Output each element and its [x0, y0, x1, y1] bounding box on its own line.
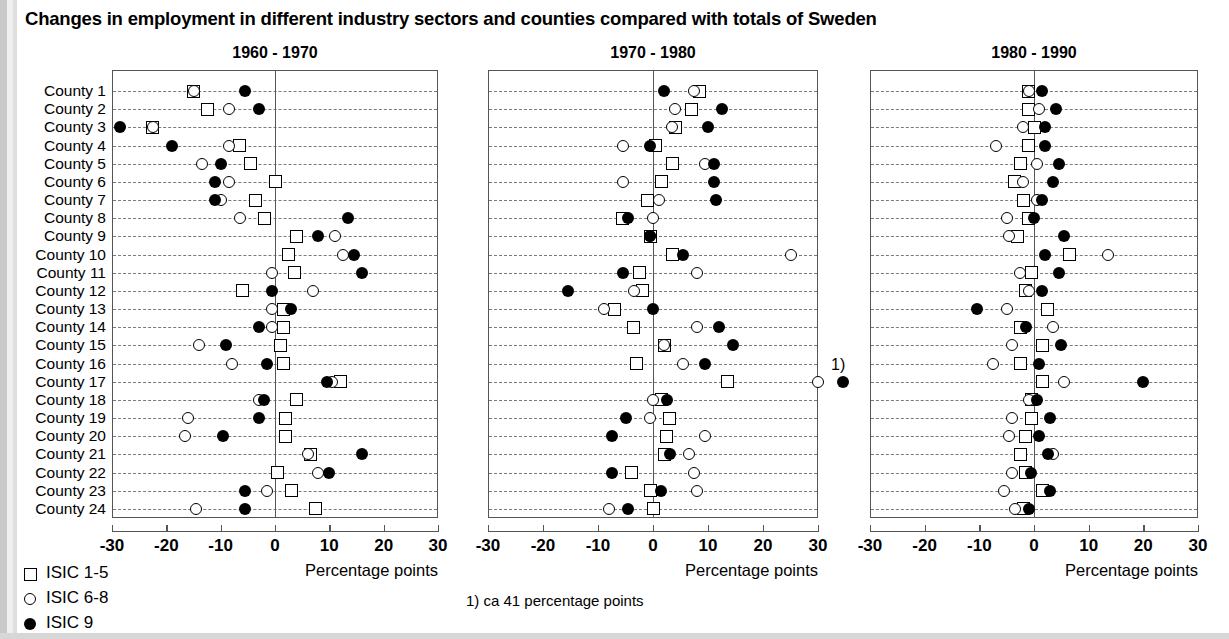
- data-point-open-square: [630, 357, 643, 370]
- row-label-county-21: County 21: [20, 445, 106, 463]
- row-label-county-24: County 24: [20, 500, 106, 518]
- data-point-filled-circle: [1020, 321, 1032, 333]
- data-point-open-circle: [1017, 176, 1029, 188]
- row-label-county-7: County 7: [20, 191, 106, 209]
- data-point-filled-circle: [661, 394, 673, 406]
- data-point-filled-circle: [166, 140, 178, 152]
- data-point-filled-circle: [258, 394, 270, 406]
- x-axis-tick-label: 20: [1118, 536, 1168, 556]
- x-axis-tick-label: -20: [900, 536, 950, 556]
- data-point-open-square: [666, 157, 679, 170]
- data-point-open-square: [1019, 430, 1032, 443]
- x-axis-tick: [112, 525, 113, 532]
- row-label-county-6: County 6: [20, 173, 106, 191]
- data-point-open-square: [660, 430, 673, 443]
- data-point-open-square: [279, 430, 292, 443]
- data-point-open-circle: [617, 176, 629, 188]
- data-point-open-square: [274, 339, 287, 352]
- page-edge-shadow-inner: [13, 0, 17, 639]
- x-axis-tick-label: -10: [573, 536, 623, 556]
- data-point-open-square: [271, 466, 284, 479]
- data-point-open-circle: [1031, 158, 1043, 170]
- x-axis-tick: [818, 525, 819, 532]
- data-point-filled-circle: [321, 376, 333, 388]
- data-point-open-square: [277, 357, 290, 370]
- data-point-open-square: [1014, 448, 1027, 461]
- data-point-filled-circle: [348, 249, 360, 261]
- x-axis-caption: Percentage points: [1048, 561, 1198, 580]
- data-point-filled-circle: [644, 140, 656, 152]
- row-label-county-15: County 15: [20, 336, 106, 354]
- footnote-marker: 1): [831, 356, 845, 374]
- data-point-open-square: [1014, 357, 1027, 370]
- legend-label: ISIC 1-5: [46, 563, 108, 583]
- row-label-county-17: County 17: [20, 373, 106, 391]
- x-axis-tick: [708, 525, 709, 532]
- x-axis-tick: [1034, 525, 1035, 532]
- x-axis-tick: [543, 525, 544, 532]
- x-axis-tick: [925, 525, 926, 532]
- data-point-open-circle: [261, 485, 273, 497]
- data-point-filled-circle: [677, 249, 689, 261]
- panel-title: 1980 - 1990: [870, 44, 1198, 62]
- x-axis-tick: [329, 525, 330, 532]
- data-point-filled-circle: [1036, 285, 1048, 297]
- data-point-open-circle: [1023, 85, 1035, 97]
- data-point-filled-circle: [239, 503, 251, 515]
- x-axis-tick-label: -10: [196, 536, 246, 556]
- row-label-county-2: County 2: [20, 100, 106, 118]
- data-point-open-square: [290, 230, 303, 243]
- data-point-open-square: [655, 175, 668, 188]
- data-point-open-circle: [987, 358, 999, 370]
- row-label-county-11: County 11: [20, 264, 106, 282]
- data-point-open-square: [201, 103, 214, 116]
- data-point-open-square: [627, 321, 640, 334]
- row-label-county-18: County 18: [20, 391, 106, 409]
- legend-symbol-open-square: [24, 568, 37, 581]
- data-point-filled-circle: [253, 321, 265, 333]
- x-axis-tick-label: -30: [463, 536, 513, 556]
- data-point-filled-circle: [658, 85, 670, 97]
- row-label-county-20: County 20: [20, 427, 106, 445]
- data-point-open-square: [625, 466, 638, 479]
- page-edge-shadow-bottom: [0, 633, 1229, 639]
- legend-symbol-open-circle: [24, 593, 36, 605]
- x-axis-tick-label: 30: [1173, 536, 1223, 556]
- data-point-filled-circle: [1042, 448, 1054, 460]
- data-point-open-circle: [653, 194, 665, 206]
- data-point-filled-circle: [1025, 467, 1037, 479]
- x-axis-tick: [870, 525, 871, 532]
- x-axis-tick-label: -10: [954, 536, 1004, 556]
- data-point-filled-circle: [239, 485, 251, 497]
- x-axis-tick: [488, 525, 489, 532]
- x-axis-tick-label: -20: [518, 536, 568, 556]
- data-point-filled-circle: [699, 358, 711, 370]
- data-point-filled-circle: [664, 448, 676, 460]
- row-label-county-23: County 23: [20, 482, 106, 500]
- data-point-filled-circle: [606, 430, 618, 442]
- data-point-open-square: [269, 175, 282, 188]
- x-axis-tick-label: 10: [683, 536, 733, 556]
- data-point-filled-circle: [837, 376, 849, 388]
- data-point-open-square: [1022, 139, 1035, 152]
- row-label-county-14: County 14: [20, 318, 106, 336]
- data-point-filled-circle: [1053, 158, 1065, 170]
- data-point-open-circle: [223, 140, 235, 152]
- data-point-open-circle: [990, 140, 1002, 152]
- data-point-open-square: [309, 502, 322, 515]
- data-point-open-circle: [598, 303, 610, 315]
- data-point-open-circle: [785, 249, 797, 261]
- data-point-filled-circle: [253, 103, 265, 115]
- row-label-county-13: County 13: [20, 300, 106, 318]
- x-axis-tick-label: 20: [738, 536, 788, 556]
- row-label-county-9: County 9: [20, 227, 106, 245]
- data-point-filled-circle: [655, 485, 667, 497]
- data-point-filled-circle: [261, 358, 273, 370]
- page-title: Changes in employment in different indus…: [25, 8, 877, 30]
- data-point-open-square: [1025, 412, 1038, 425]
- row-label-county-1: County 1: [20, 82, 106, 100]
- data-point-open-circle: [196, 158, 208, 170]
- x-axis-tick-label: -20: [141, 536, 191, 556]
- data-point-open-square: [663, 412, 676, 425]
- data-point-open-circle: [1006, 467, 1018, 479]
